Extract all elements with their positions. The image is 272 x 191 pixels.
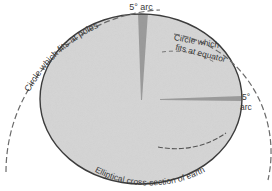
right-arc-label-line1: 5° (242, 92, 250, 102)
right-arc-label-line2: arc (240, 102, 253, 112)
top-arc-label: 5° arc (129, 2, 153, 12)
earth-ellipse-diagram: 5° arc 5° arc Circle which fits at poles… (0, 0, 272, 191)
